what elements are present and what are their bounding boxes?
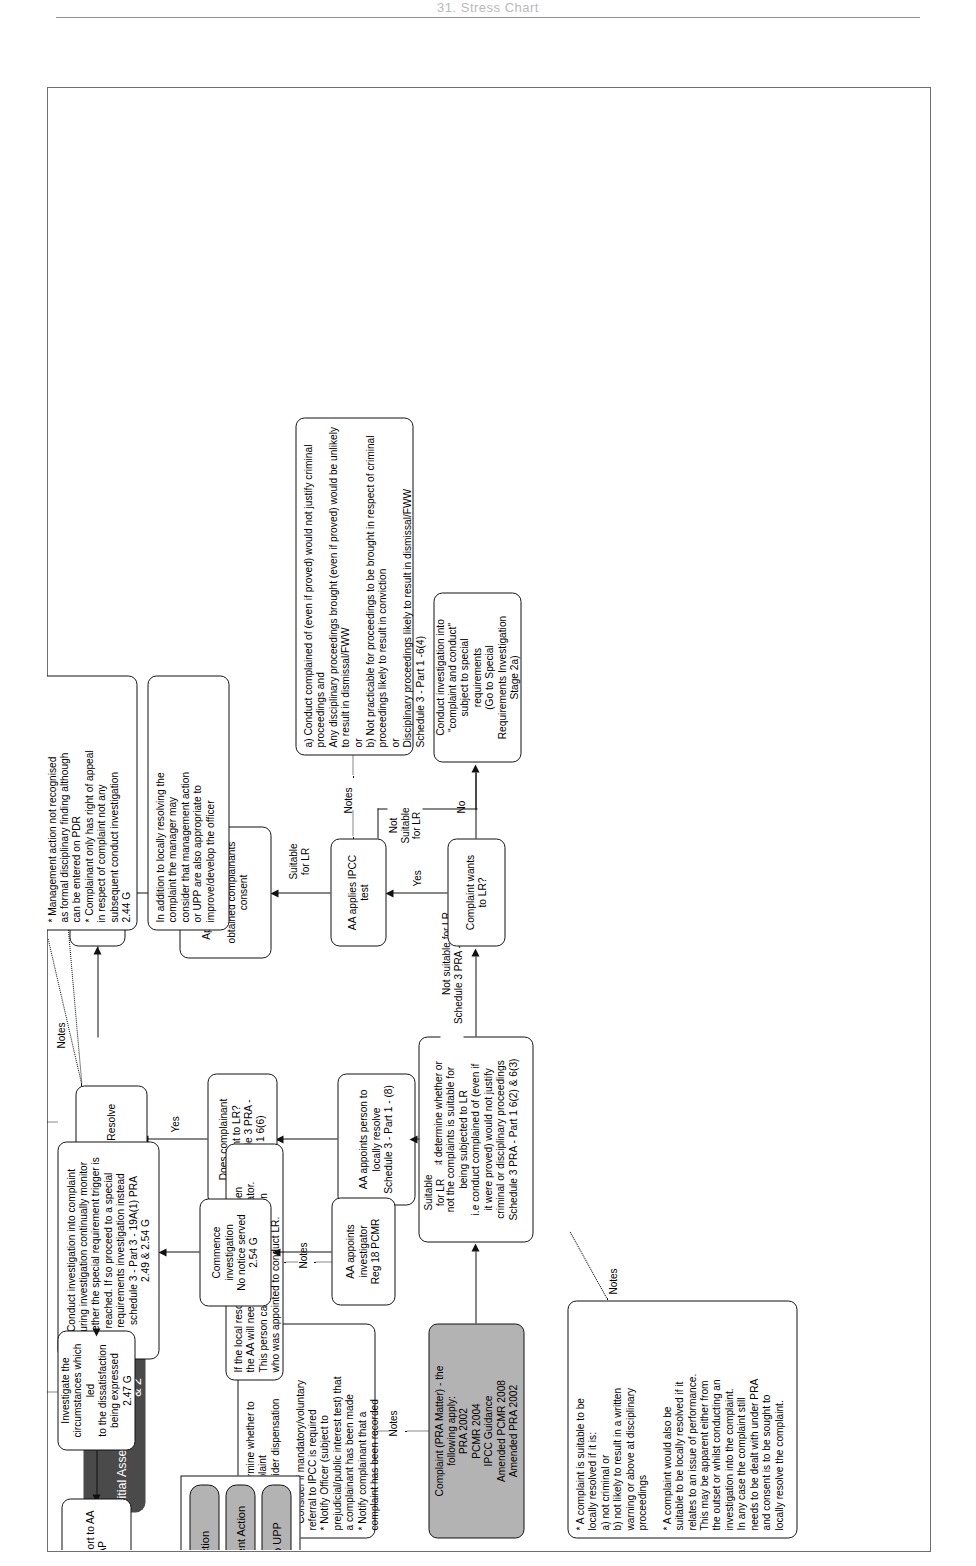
node-commence-investigation[interactable]: Commence investigation No notice served … [199, 1198, 271, 1306]
diagram-canvas-wrapper: Complaints (PRA Matter) Initial Assessme… [47, 87, 929, 1550]
arrowhead-conduct-monitor-to-investigate [92, 1328, 100, 1336]
node-start-complaint[interactable]: Complaint (PRA Matter) - the following a… [428, 1323, 524, 1538]
notes-label-locally-resolve: Notes [55, 1020, 67, 1050]
edge-start-to-aa-determine [475, 1251, 476, 1323]
edge-ipcc-not-suitable-h2 [475, 772, 476, 809]
outcome-management-action[interactable]: Management Action [225, 1484, 255, 1550]
arrowhead-appoints-investigator-to-commence [272, 1248, 280, 1256]
edge-label-yes-1: Yes [411, 868, 423, 888]
edge-ipcc-approval-to-locally-resolve [97, 946, 98, 1037]
dot-connector-locally-resolve-1 [47, 939, 82, 1085]
edge-label-yes-2: Yes [169, 1114, 181, 1134]
arrowhead-aa-determine-to-wants-lr [471, 948, 479, 956]
note-suitable-for-lr: * A complaint is suitable to be locally … [567, 1300, 797, 1538]
dot-connector-local-resolution-fails [283, 1261, 297, 1262]
edge-label-no-1: No [455, 798, 467, 815]
outcome-no-action[interactable]: No Action [189, 1484, 219, 1550]
node-complaint-wants-lr[interactable]: Complaint wants to LR? [447, 838, 505, 946]
node-conduct-special-requirements[interactable]: Conduct investigation into "complaint an… [433, 592, 521, 762]
notes-label-suitable-for-lr: Notes [607, 1266, 619, 1296]
dot-connector-ipcc-test-2 [352, 755, 353, 777]
arrowhead-start-to-aa-determine [471, 1243, 479, 1251]
node-aa-applies-ipcc-test[interactable]: AA applies IPCC test [330, 838, 386, 946]
node-conduct-investigation-monitor[interactable]: Conduct investigation into complaint Dur… [57, 1141, 159, 1359]
edge-ipcc-test-to-apply-ipcc [277, 892, 330, 893]
note-ipcc-test: a) Conduct complained of (even if proved… [295, 417, 413, 755]
arrowhead-ipcc-approval-to-locally-resolve [93, 946, 101, 954]
edge-label-not-suitable-for-lr-2: Not Suitable for LR [387, 800, 422, 850]
edge-appoints-lr-to-consent [282, 1138, 337, 1139]
arrowhead-wants-lr-to-special-req [471, 764, 479, 772]
edge-label-suitable-for-lr: Suitable for LR [422, 1164, 445, 1220]
note-locally-resolving-manager: In addition to locally resolving the com… [147, 675, 229, 930]
node-aa-appoints-investigator[interactable]: AA appoints investigator Reg 18 PCMR [331, 1197, 395, 1305]
outcome-refer-to-upp[interactable]: Refer to UPP [261, 1484, 291, 1550]
dot-connector-ipcc-test [352, 810, 353, 838]
node-submit-report[interactable]: Submit report to AA ASAP [61, 1498, 131, 1550]
dot-connector-special-req [47, 1121, 57, 1122]
node-aa-appoints-person-locally-resolve[interactable]: AA appoints person to locally resolve Sc… [337, 1073, 415, 1205]
edge-label-suitable-for-lr-2: Suitable for LR [287, 834, 310, 888]
notes-label-local-resolution-fails: Notes [297, 1240, 309, 1270]
dot-connector-initial-assessment [375, 1430, 389, 1431]
edge-ipcc-not-suitable-h [377, 808, 378, 838]
edge-investigate-to-submit-report [96, 1450, 97, 1495]
node-investigate-circumstances[interactable]: Investigate the circumstances which led … [57, 1330, 135, 1450]
flowchart-canvas: Complaints (PRA Matter) Initial Assessme… [47, 87, 929, 1550]
header-rule [56, 17, 920, 18]
page-header: 31. Stress Chart [0, 0, 976, 14]
dot-connector-suitable-for-lr [569, 1231, 608, 1300]
edge-consent-to-locally-resolve [147, 1138, 207, 1139]
edge-commence-to-conduct-monitor [165, 1251, 199, 1252]
arrowhead-aa-determine-to-appoints-lr [409, 1135, 417, 1143]
edge-aa-determine-to-wants-lr [475, 956, 476, 1036]
dot-connector-during-investigation [47, 1391, 57, 1392]
dot-connector-initial-assessment-2 [404, 1430, 428, 1431]
edge-appoints-investigator-to-commence [279, 1251, 331, 1252]
notes-label-initial-assessment: Notes [387, 1408, 399, 1438]
edge-wants-lr-to-ipcc-test [392, 892, 447, 893]
note-notify-complainant: * Notify complainant * Wait for appeal p… [47, 675, 137, 930]
dot-connector-local-resolution-fails-2 [313, 1261, 331, 1262]
